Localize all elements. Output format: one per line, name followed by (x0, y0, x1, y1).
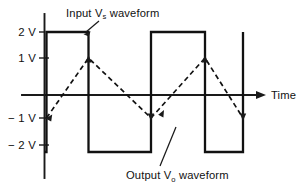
output-mid-rise-arrow (158, 110, 164, 117)
input-square-waveform (45, 32, 244, 152)
output-triangle-waveform (47, 58, 244, 118)
y-tick-label-neg2v: − 2 V (8, 139, 36, 151)
y-tick-label-2v: 2 V (18, 26, 36, 38)
y-tick-label-neg1v: − 1 V (8, 112, 36, 124)
y-tick-label-1v: 1 V (18, 52, 36, 64)
output-label-suffix: waveform (176, 169, 229, 181)
output-waveform-label: Output Vo waveform (126, 169, 229, 184)
waveform-figure: Input Vs waveform Output Vo waveform Tim… (0, 0, 304, 191)
time-axis-label: Time (271, 89, 296, 101)
output-waveform-markers (46, 55, 247, 122)
output-label-prefix: Output V (126, 169, 172, 181)
output-label-leader (160, 127, 176, 166)
output-peak-arrow-2 (202, 55, 208, 62)
time-axis-arrowhead (256, 91, 266, 99)
output-trough-arrow-2 (240, 114, 246, 121)
input-label-prefix: Input V (66, 7, 103, 19)
output-peak-arrow-1 (85, 55, 91, 62)
output-leader-line (160, 127, 176, 166)
input-label-suffix: waveform (106, 7, 159, 19)
waveform-diagram: Input Vs waveform Output Vo waveform Tim… (0, 0, 304, 191)
input-waveform-label: Input Vs waveform (66, 7, 159, 22)
output-trough-arrow-1 (148, 114, 154, 121)
input-label-leader (84, 21, 100, 37)
input-leader-line (86, 21, 99, 32)
